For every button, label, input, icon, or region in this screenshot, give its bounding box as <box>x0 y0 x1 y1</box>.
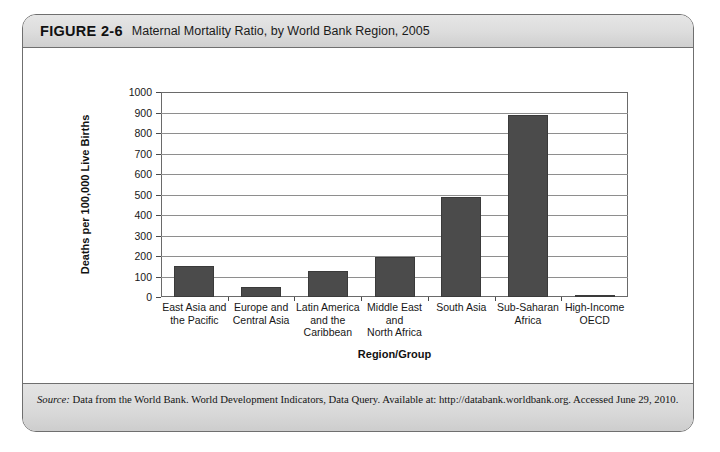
y-axis-tick-label: 600 <box>134 168 152 180</box>
source-line: Source: Data from the World Bank. World … <box>37 392 678 406</box>
bar-middle-east-and-north-africa[interactable] <box>375 257 415 297</box>
x-axis-tick-label: Middle EastandNorth Africa <box>361 301 428 339</box>
y-axis-tick-label: 500 <box>134 189 152 201</box>
y-axis-tick <box>156 297 161 298</box>
y-axis-tick-label: 1000 <box>129 86 152 98</box>
figure-title: Maternal Mortality Ratio, by World Bank … <box>132 24 430 38</box>
x-axis-title: Region/Group <box>161 348 628 360</box>
y-axis-tick-label: 100 <box>134 271 152 283</box>
bar-high-income-oecd[interactable] <box>575 295 615 297</box>
x-axis-tick <box>428 297 429 301</box>
bar-slot <box>294 92 361 297</box>
y-axis-tick-label: 200 <box>134 250 152 262</box>
y-axis-tick-label: 900 <box>134 107 152 119</box>
x-axis-tick <box>361 297 362 301</box>
figure-footer: Source: Data from the World Bank. World … <box>23 383 693 431</box>
x-axis-tick <box>228 297 229 301</box>
bar-south-asia[interactable] <box>441 197 481 297</box>
x-axis-tick-label: South Asia <box>428 301 495 339</box>
x-axis-tick-labels: East Asia andthe PacificEurope andCentra… <box>161 301 628 339</box>
bar-slot <box>361 92 428 297</box>
figure-header: FIGURE 2-6 Maternal Mortality Ratio, by … <box>23 15 693 48</box>
source-label: Source: <box>37 393 70 405</box>
source-citation: Data from the World Bank. World Developm… <box>73 393 679 405</box>
bar-europe-and-central-asia[interactable] <box>241 287 281 297</box>
x-axis-tick-label: High-IncomeOECD <box>561 301 628 339</box>
bar-sub-saharan-africa[interactable] <box>508 115 548 297</box>
y-axis-tick-label: 700 <box>134 148 152 160</box>
y-axis-tick-label: 300 <box>134 230 152 242</box>
chart-area: Deaths per 100,000 Live Births 100090080… <box>23 48 693 385</box>
plot-area: 10009008007006005004003002001000 <box>161 92 628 297</box>
bar-slot <box>428 92 495 297</box>
y-axis-title: Deaths per 100,000 Live Births <box>79 92 95 297</box>
y-axis-tick-label: 800 <box>134 127 152 139</box>
figure-frame: FIGURE 2-6 Maternal Mortality Ratio, by … <box>22 14 694 432</box>
bar-slot <box>561 92 628 297</box>
bar-slot <box>161 92 228 297</box>
y-axis-tick-label: 400 <box>134 209 152 221</box>
x-axis-tick <box>294 297 295 301</box>
y-axis-tick-label: 0 <box>146 291 152 303</box>
x-axis-tick-label: Latin Americaand theCaribbean <box>294 301 361 339</box>
x-axis-tick-label: Sub-SaharanAfrica <box>495 301 562 339</box>
x-axis-tick <box>561 297 562 301</box>
figure-number: FIGURE 2-6 <box>40 23 123 39</box>
bar-slot <box>228 92 295 297</box>
x-axis-tick-label: East Asia andthe Pacific <box>161 301 228 339</box>
x-axis-tick-label: Europe andCentral Asia <box>228 301 295 339</box>
bar-slot <box>495 92 562 297</box>
figure-screenshot: FIGURE 2-6 Maternal Mortality Ratio, by … <box>0 0 720 452</box>
bar-east-asia-and-the-pacific[interactable] <box>174 266 214 297</box>
bar-series <box>161 92 628 297</box>
x-axis-tick <box>495 297 496 301</box>
bar-latin-america-and-the-caribbean[interactable] <box>308 271 348 297</box>
